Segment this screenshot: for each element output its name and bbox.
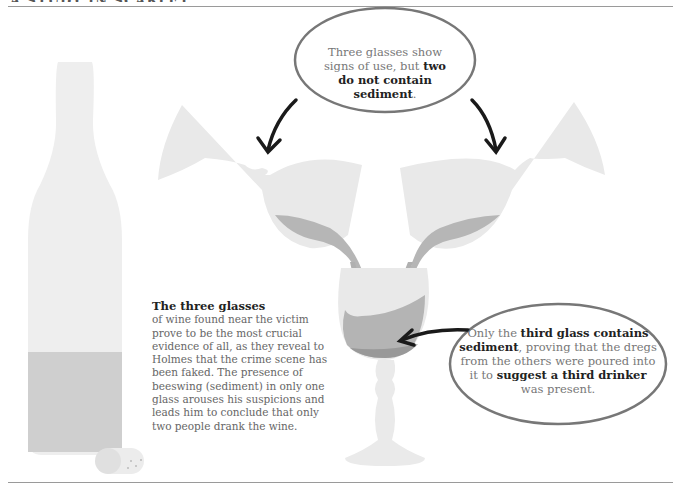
top-bubble-text: Three glasses show signs of use, but two… [315, 45, 455, 101]
cork [95, 448, 144, 474]
bottom-rule [8, 482, 673, 483]
right-glass [400, 102, 605, 272]
wine-bottle [28, 62, 122, 455]
upright-glass [338, 268, 429, 466]
caption-body: of wine found near the victim prove to b… [152, 313, 332, 433]
arrow-left [258, 100, 296, 152]
left-glass [158, 105, 362, 272]
caption: The three glasses of wine found near the… [152, 300, 332, 433]
arrow-right [472, 100, 505, 152]
right-bubble-text: Only the third glass contains sediment, … [458, 326, 658, 396]
bottle-wine-level [28, 352, 122, 452]
caption-lead: The three glasses [152, 300, 332, 313]
